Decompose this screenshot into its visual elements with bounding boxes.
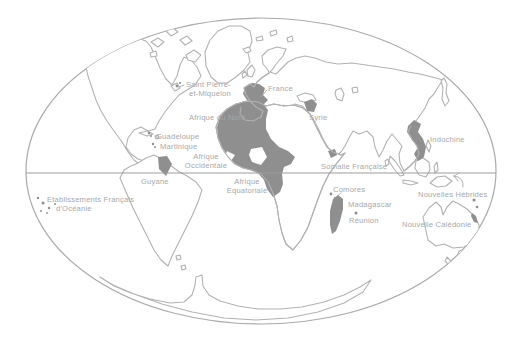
label-saint-pierre-line1: Saint Pierre- [186, 80, 231, 89]
label-syrie: Syrie [309, 113, 327, 122]
label-afrique-occidentale-line1: Afrique [193, 152, 218, 161]
world-map: Saint Pierre- et-Miquelon France Afrique… [0, 0, 517, 340]
world-map-canvas: Saint Pierre- et-Miquelon France Afrique… [0, 0, 517, 340]
label-saint-pierre-line2: et-Miquelon [189, 89, 231, 98]
label-somalie-francaise: Somalie Française [321, 162, 387, 171]
label-reunion: Réunion [349, 216, 379, 225]
label-indochine: Indochine [430, 135, 465, 144]
label-france: France [268, 84, 293, 93]
label-guyane: Guyane [141, 177, 169, 186]
label-martinique: Martinique [160, 142, 197, 151]
label-oceanie-line2: d'Océanie [56, 204, 92, 213]
label-nouvelles-hebrides: Nouvelles Hébrides [418, 190, 487, 199]
label-afrique-equatoriale-line2: Equatoriale [227, 186, 268, 195]
label-afrique-equatoriale-line1: Afrique [234, 177, 259, 186]
reunion-island [355, 212, 358, 215]
label-afrique-occidentale-line2: Occidentale [185, 161, 227, 170]
label-afrique-du-nord: Afrique du Nord [189, 113, 245, 122]
label-madagascar: Madagascar [348, 200, 392, 209]
label-comores: Comores [333, 185, 365, 194]
label-guadeloupe: Guadeloupe [156, 132, 199, 141]
label-oceanie-line1: Etablissements Français [47, 195, 134, 204]
label-nouvelle-caledonie: Nouvelle Calédonie [402, 220, 471, 229]
